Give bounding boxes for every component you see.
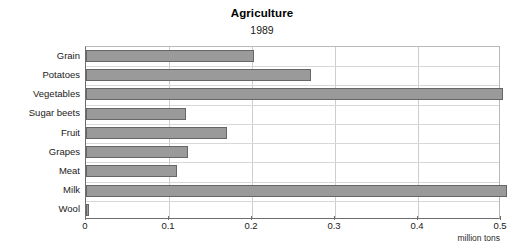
x-tick-label-0.5: 0.5 (493, 220, 506, 231)
chart-subtitle: 1989 (0, 24, 524, 36)
x-axis-label: million tons (330, 233, 500, 243)
bar-row (86, 124, 499, 143)
bar-row (86, 66, 499, 85)
x-tick-label-0.2: 0.2 (244, 220, 257, 231)
x-tick-label-0.4: 0.4 (410, 220, 423, 231)
bar-meat[interactable] (86, 165, 177, 177)
bar-vegetables[interactable] (86, 88, 503, 100)
category-label-fruit: Fruit (0, 127, 80, 138)
bar-milk[interactable] (86, 185, 507, 197)
x-tick-label-0.1: 0.1 (161, 220, 174, 231)
x-tick-label-0: 0 (82, 220, 87, 231)
bar-fruit[interactable] (86, 127, 227, 139)
category-label-meat: Meat (0, 165, 80, 176)
category-label-sugar-beets: Sugar beets (0, 107, 80, 118)
bar-grain[interactable] (86, 50, 254, 62)
bar-row (86, 182, 499, 201)
chart-title: Agriculture (0, 7, 524, 19)
category-label-potatoes: Potatoes (0, 69, 80, 80)
category-label-vegetables: Vegetables (0, 88, 80, 99)
bar-sugar-beets[interactable] (86, 108, 186, 120)
bar-row (86, 47, 499, 66)
bar-row (86, 143, 499, 162)
category-label-grain: Grain (0, 50, 80, 61)
bar-row (86, 201, 499, 220)
bar-row (86, 162, 499, 181)
bar-row (86, 105, 499, 124)
category-label-grapes: Grapes (0, 146, 80, 157)
category-label-milk: Milk (0, 184, 80, 195)
value-axis-ticks: 00.10.20.30.40.5 (85, 220, 500, 234)
bar-grapes[interactable] (86, 146, 188, 158)
agriculture-bar-chart: Agriculture 1989 GrainPotatoesVegetables… (0, 0, 524, 249)
bar-row (86, 85, 499, 104)
x-tick-label-0.3: 0.3 (327, 220, 340, 231)
bar-wool[interactable] (86, 204, 89, 216)
category-label-wool: Wool (0, 203, 80, 214)
plot-area (85, 46, 500, 219)
bar-potatoes[interactable] (86, 69, 311, 81)
category-axis-labels: GrainPotatoesVegetablesSugar beetsFruitG… (0, 46, 80, 219)
bar-series (86, 47, 499, 218)
